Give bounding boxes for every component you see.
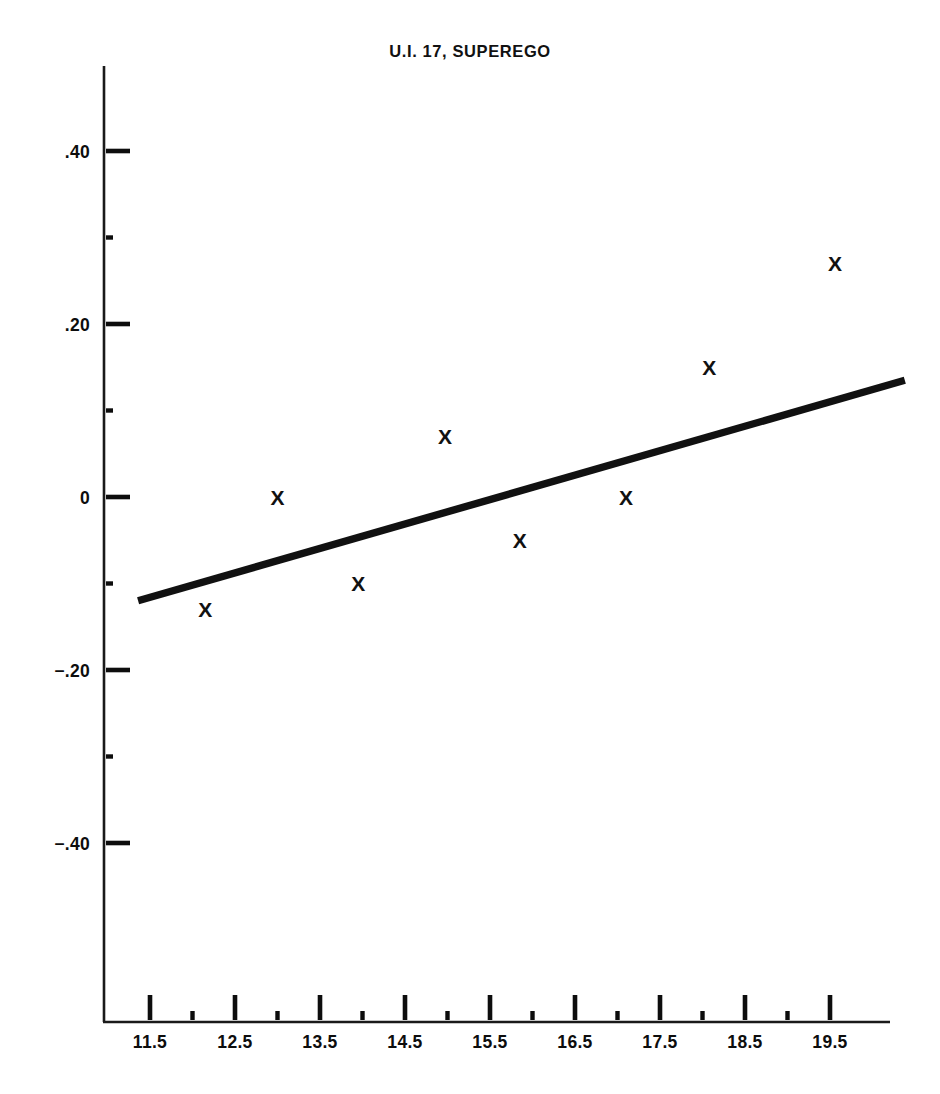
trend-line-segment: [138, 380, 905, 601]
data-point-marker: X: [270, 486, 284, 509]
x-tick-label: 13.5: [302, 1032, 337, 1052]
x-tick-label: 17.5: [642, 1032, 677, 1052]
data-point-marker: X: [513, 529, 527, 552]
x-tick-label: 12.5: [217, 1032, 252, 1052]
x-tick-label: 19.5: [812, 1032, 847, 1052]
y-tick-label: −.20: [54, 661, 90, 681]
x-tick-label: 18.5: [727, 1032, 762, 1052]
data-point-marker: X: [438, 425, 452, 448]
data-point-marker: X: [619, 486, 633, 509]
scatter-plot-canvas: .40.200−.20−.40 11.512.513.514.515.516.5…: [0, 0, 940, 1094]
regression-line: [138, 380, 905, 601]
y-axis: .40.200−.20−.40: [54, 66, 130, 1022]
x-axis: 11.512.513.514.515.516.517.518.519.5: [103, 995, 890, 1052]
y-axis-major-ticks: [106, 151, 130, 843]
data-point-markers: XXXXXXXX: [198, 252, 842, 621]
x-tick-label: 16.5: [557, 1032, 592, 1052]
y-tick-label: .40: [65, 142, 90, 162]
x-tick-label: 14.5: [387, 1032, 422, 1052]
x-tick-label: 15.5: [472, 1032, 507, 1052]
x-axis-tick-labels: 11.512.513.514.515.516.517.518.519.5: [133, 1032, 848, 1052]
y-tick-label: .20: [65, 315, 90, 335]
data-point-marker: X: [198, 598, 212, 621]
y-tick-label: 0: [80, 488, 90, 508]
data-point-marker: X: [702, 356, 716, 379]
x-tick-label: 11.5: [133, 1032, 167, 1052]
x-axis-major-ticks: [150, 995, 830, 1020]
y-axis-tick-labels: .40.200−.20−.40: [54, 142, 90, 854]
data-point-marker: X: [351, 572, 365, 595]
chart-root: U.I. 17, SUPEREGO .40.200−.20−.40 11.512…: [0, 0, 940, 1094]
data-point-marker: X: [828, 252, 842, 275]
y-tick-label: −.40: [54, 834, 90, 854]
